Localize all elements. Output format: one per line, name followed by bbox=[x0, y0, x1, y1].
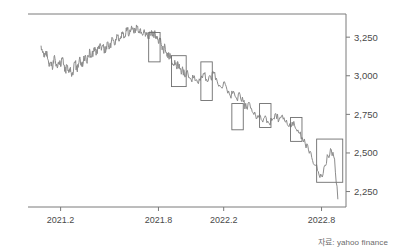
x-tick-label: 2021.8 bbox=[145, 215, 173, 225]
x-tick-label: 2021.2 bbox=[47, 215, 75, 225]
y-tick-label: 2,750 bbox=[354, 109, 378, 120]
y-tick-label: 3,250 bbox=[354, 32, 378, 43]
price-line bbox=[41, 25, 338, 199]
source-attribution: 자료: yahoo finance bbox=[318, 236, 388, 247]
y-tick-label: 2,500 bbox=[354, 147, 378, 158]
y-tick-label: 3,000 bbox=[354, 70, 378, 81]
stock-index-chart: 3,2503,0002,7502,5002,2502021.22021.8202… bbox=[0, 0, 394, 251]
x-tick-label: 2022.8 bbox=[308, 215, 336, 225]
x-tick-label: 2022.2 bbox=[210, 215, 238, 225]
y-tick-label: 2,250 bbox=[354, 186, 378, 197]
highlight-box-4 bbox=[232, 104, 243, 130]
chart-canvas: 3,2503,0002,7502,5002,2502021.22021.8202… bbox=[0, 0, 394, 251]
highlight-box-3 bbox=[201, 62, 212, 101]
